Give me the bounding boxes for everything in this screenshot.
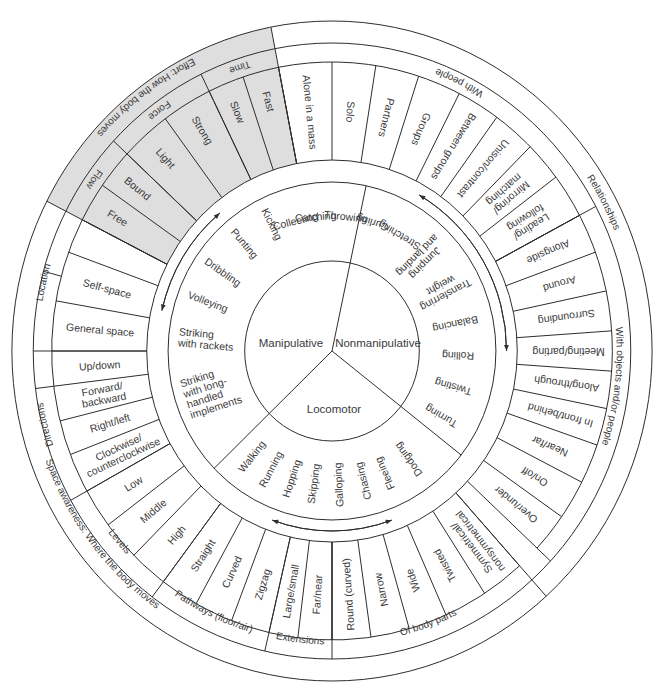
- divider-line: [537, 548, 550, 561]
- concept-label-levels: Middle: [137, 496, 168, 525]
- concept-label-with-people: Solo: [344, 101, 358, 123]
- divider-line: [265, 633, 269, 652]
- concept-label-with-objects: On/off: [519, 465, 550, 490]
- effort-shade: [47, 27, 297, 264]
- concept-label-extensions: Far/near: [310, 574, 324, 615]
- core-label-nonmanipulative: Nonmanipulative: [335, 337, 421, 349]
- skill-label-locomotor: Running: [256, 449, 285, 489]
- concept-label-with-people: Partners: [376, 97, 397, 138]
- divider-line: [517, 331, 612, 338]
- core-label-locomotor: Locomotor: [307, 403, 362, 415]
- concept-label-directions: Up/down: [79, 358, 121, 373]
- concept-label-with-people: Alone in a mass: [301, 74, 320, 150]
- divider-line: [152, 582, 163, 597]
- arrowhead-icon: [504, 345, 509, 351]
- category-label-space-awareness: Space awareness: Where the body moves: [44, 457, 162, 610]
- concept-label-with-objects: Meeting/parting: [532, 346, 605, 358]
- concept-label-body-parts: Narrow: [371, 572, 390, 608]
- concept-label-location: General space: [66, 321, 135, 339]
- arrowhead-icon: [272, 520, 278, 525]
- skill-label-manipulative: Strikingwith long-handledimplements: [177, 361, 243, 421]
- subcat-label-extensions: Extensions: [275, 630, 324, 647]
- divider-line: [389, 76, 418, 169]
- concept-label-location: Self-space: [82, 276, 133, 300]
- skill-label-locomotor: Galloping: [331, 462, 345, 507]
- concept-label-with-objects: In front/behind: [526, 401, 594, 430]
- concept-label-with-people: Groups: [409, 111, 433, 147]
- movement-wheel-diagram: ManipulativeNonmanipulativeLocomotorColl…: [0, 0, 662, 694]
- concept-label-pathways: Zigzag: [252, 567, 273, 601]
- divider-line: [383, 535, 409, 629]
- divider-line: [298, 541, 310, 638]
- concept-label-with-people: Mirroring/matching: [484, 171, 533, 218]
- skill-label-locomotor: Hopping: [280, 458, 304, 499]
- concept-label-with-people: Between groups: [429, 111, 479, 182]
- concept-label-with-people: Leading/following: [505, 202, 552, 243]
- wheel-canvas: ManipulativeNonmanipulativeLocomotorColl…: [0, 0, 662, 694]
- divider-line: [69, 252, 158, 286]
- concept-label-pathways: Curved: [219, 554, 244, 590]
- ring-arc: [272, 520, 391, 531]
- skill-label-nonmanipulative: Rolling: [442, 349, 475, 362]
- concept-label-levels: Low: [122, 473, 145, 494]
- skill-label-locomotor: Dodging: [392, 440, 425, 479]
- effort-shaded-region: [47, 27, 297, 264]
- divider-line: [517, 364, 612, 371]
- concept-label-with-objects: Along/through: [533, 374, 600, 395]
- subcat-label-with-objects: With objects and/or people: [600, 327, 626, 448]
- skill-label-nonmanipulative: Stretching: [376, 218, 423, 253]
- concept-label-body-parts: Wide: [403, 567, 423, 594]
- divider-line: [358, 540, 371, 637]
- divider-line: [580, 206, 596, 215]
- skill-label-manipulative: Dribbling: [203, 255, 244, 289]
- skill-label-nonmanipulative: Balancing: [431, 314, 479, 335]
- core-label-manipulative: Manipulative: [259, 337, 324, 349]
- divider-line: [35, 386, 53, 388]
- concept-label-with-objects: Surrounding: [537, 308, 595, 328]
- subcat-label-levels: Levels: [106, 527, 133, 556]
- subcat-label-pathways: Pathways (floor/air): [173, 588, 254, 635]
- skill-label-nonmanipulative: Twisting: [433, 376, 473, 398]
- concept-label-with-objects: Near/far: [529, 434, 569, 460]
- concept-label-with-objects: Around: [542, 274, 578, 295]
- divider-line: [71, 491, 87, 500]
- skill-label-manipulative: Punting: [229, 226, 261, 261]
- skill-label-locomotor: Chasing: [352, 461, 373, 501]
- subcat-label-location: Location: [34, 262, 53, 302]
- skill-label-locomotor: Skipping: [305, 463, 323, 505]
- concept-label-body-parts: Round (curved): [340, 558, 357, 631]
- divider-line: [56, 301, 150, 318]
- skill-label-nonmanipulative: Turning: [423, 402, 460, 430]
- concept-label-levels: High: [165, 523, 188, 547]
- concept-label-body-parts: Twisted: [431, 547, 459, 584]
- skill-label-locomotor: Fleeing: [372, 455, 397, 491]
- concept-label-directions: Right/left: [88, 411, 131, 435]
- skill-label-manipulative: Volleying: [186, 288, 230, 314]
- divider-line: [361, 66, 376, 163]
- subcat-label-directions: Directions: [34, 402, 55, 448]
- concept-label-with-objects: Over/under: [491, 483, 540, 526]
- skill-label-manipulative: Strikingwith rackets: [177, 325, 235, 353]
